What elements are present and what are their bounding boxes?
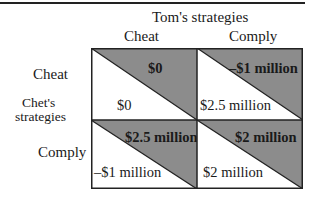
column-player-label: Tom's strategies <box>152 10 248 25</box>
row-header-comply: Comply <box>38 145 86 160</box>
row-header-cheat: Cheat <box>33 67 68 82</box>
top-rule <box>0 2 305 4</box>
row-player-label-line2: strategies <box>15 110 66 124</box>
payoff-matrix: $0 $0 –$1 million $2.5 million $2.5 mill… <box>91 48 303 189</box>
row-player-label-line1: Chet's <box>22 96 55 110</box>
column-header-comply: Comply <box>229 29 277 44</box>
column-header-cheat: Cheat <box>124 29 159 44</box>
matrix-borders <box>91 48 303 189</box>
